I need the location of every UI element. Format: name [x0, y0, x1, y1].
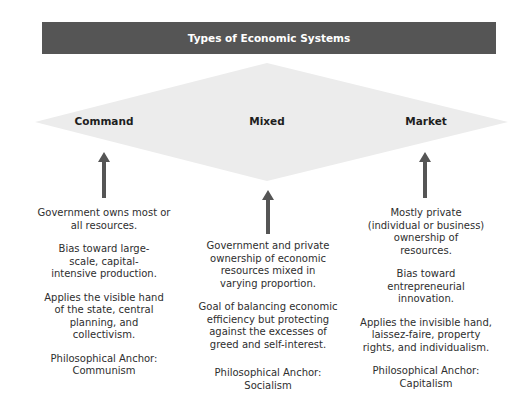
mixed-ownership: Government and private ownership of econ… [204, 240, 332, 290]
command-approach: Applies the visible hand of the state, c… [39, 292, 169, 342]
command-description: Government owns most or all resources. B… [34, 207, 174, 389]
up-arrow-icon [261, 190, 275, 234]
system-label-command: Command [75, 115, 134, 127]
market-ownership: Mostly private (individual or business) … [367, 207, 485, 257]
mixed-description: Government and private ownership of econ… [194, 240, 342, 403]
up-arrow-icon [97, 152, 111, 198]
system-label-mixed: Mixed [249, 115, 284, 127]
market-approach: Applies the invisible hand, laissez-fair… [360, 317, 492, 355]
mixed-goal: Goal of balancing economic efficiency bu… [194, 301, 342, 351]
market-description: Mostly private (individual or business) … [360, 207, 492, 401]
market-bias: Bias toward entrepreneurial innovation. [360, 268, 492, 306]
command-bias: Bias toward large-scale, capital-intensi… [49, 243, 159, 281]
command-ownership: Government owns most or all resources. [34, 207, 174, 232]
system-label-market: Market [405, 115, 447, 127]
mixed-anchor: Philosophical Anchor: Socialism [213, 367, 323, 392]
command-anchor: Philosophical Anchor: Communism [49, 353, 159, 378]
market-anchor: Philosophical Anchor: Capitalism [371, 365, 481, 390]
up-arrow-icon [418, 152, 432, 198]
